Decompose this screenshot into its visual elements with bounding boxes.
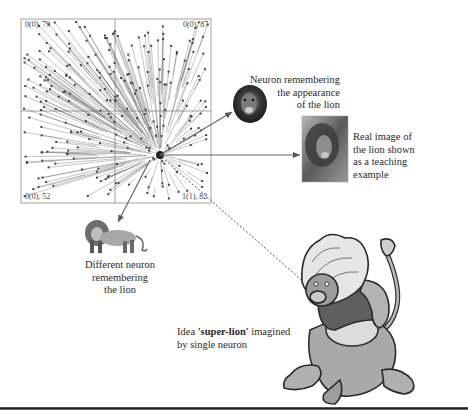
caption-line: the appearance bbox=[232, 87, 340, 100]
caption-line: Neuron remembering bbox=[232, 74, 340, 87]
caption-emphasis: 'super-lion' bbox=[198, 326, 249, 337]
corner-label-bottom-left: 0(0), 52 bbox=[25, 192, 50, 201]
caption-line: of the lion bbox=[232, 99, 340, 112]
data-points bbox=[23, 21, 209, 199]
caption-real-image: Real image of the lion shown as a teachi… bbox=[353, 131, 415, 181]
corner-label-top-right: 0(0), 87 bbox=[183, 20, 208, 29]
lion-photo-icon bbox=[302, 116, 348, 182]
caption-line: the lion bbox=[70, 284, 170, 297]
caption-line: the lion shown bbox=[353, 144, 415, 157]
caption-super-lion: Idea 'super-lion' imagined by single neu… bbox=[177, 326, 290, 351]
cartoon-super-lion-icon bbox=[284, 234, 414, 404]
caption-line: example bbox=[353, 169, 415, 182]
caption-line: Real image of bbox=[353, 131, 415, 144]
caption-prefix: Idea bbox=[177, 326, 198, 337]
corner-label-top-left: 0(0), 79 bbox=[25, 20, 50, 29]
caption-different-neuron: Different neuron remembering the lion bbox=[70, 259, 170, 297]
corner-label-bottom-right: 1(1), 82 bbox=[182, 192, 207, 201]
caption-line: Different neuron bbox=[70, 259, 170, 272]
standing-lion-icon bbox=[85, 220, 147, 253]
caption-line: remembering bbox=[70, 272, 170, 285]
weight-vectors bbox=[24, 22, 208, 198]
bottom-rule bbox=[0, 407, 468, 410]
caption-suffix: imagined bbox=[249, 326, 291, 337]
caption-line: as a teaching bbox=[353, 156, 415, 169]
caption-neuron-appearance: Neuron remembering the appearance of the… bbox=[232, 74, 340, 112]
arrow-to-standing-lion bbox=[118, 160, 150, 222]
scatter-plot bbox=[21, 19, 211, 203]
caption-line-1: Idea 'super-lion' imagined bbox=[177, 326, 290, 339]
figure-canvas bbox=[0, 0, 468, 416]
caption-line-2: by single neuron bbox=[177, 339, 290, 352]
arrow-to-super-lion bbox=[165, 160, 306, 284]
